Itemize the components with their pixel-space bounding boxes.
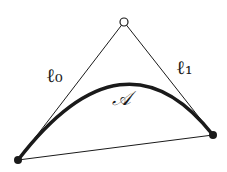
- endpoint-end: [209, 131, 217, 139]
- label-area: 𝒜: [112, 86, 131, 110]
- endpoint-start: [14, 156, 22, 164]
- control-point: [120, 18, 128, 26]
- chord-line: [18, 135, 213, 160]
- label-l0: ℓ₀: [46, 64, 63, 87]
- bezier-diagram: ℓ₀ ℓ₁ 𝒜: [0, 0, 227, 172]
- label-l1: ℓ₁: [176, 56, 193, 79]
